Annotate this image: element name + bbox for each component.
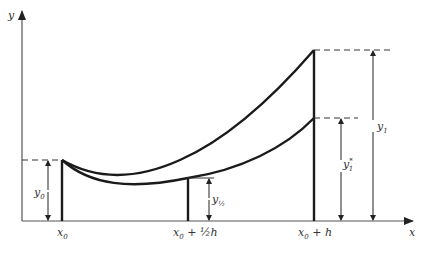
tick-label-x0-half-h: x0 + ½h — [173, 226, 218, 241]
label-y1: y1 — [376, 120, 388, 135]
dashed-guides — [22, 50, 392, 160]
tick-label-x0-h: x0 + h — [298, 226, 332, 241]
x-tick-labels: x0 x0 + ½h x0 + h — [57, 226, 332, 241]
single-step-curve — [62, 50, 314, 175]
label-y1-star: y*1 — [342, 157, 353, 173]
label-y0: y0 — [33, 186, 45, 201]
y-axis-label: y — [7, 9, 15, 22]
x-axis-label: x — [409, 226, 416, 239]
diagram-canvas: y x y0 y½ — [0, 0, 434, 255]
two-half-step-curve-second — [188, 118, 314, 178]
label-y-half: y½ — [211, 193, 225, 208]
measurement-labels: y0 y½ y*1 y1 — [33, 120, 388, 208]
curves — [62, 50, 314, 184]
ordinates — [62, 50, 314, 221]
measurement-arrows — [48, 51, 373, 220]
tick-label-x0: x0 — [57, 226, 68, 241]
